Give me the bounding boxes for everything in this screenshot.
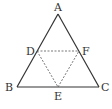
label-c: C: [101, 81, 109, 94]
label-e: E: [54, 90, 62, 103]
label-b: B: [5, 81, 13, 94]
label-f: F: [82, 45, 90, 58]
segment-de: [37, 51, 58, 87]
label-d: D: [26, 45, 35, 58]
segment-ca: [58, 14, 99, 87]
label-a: A: [53, 1, 63, 14]
triangle-diagram: A B C D E F: [0, 0, 112, 109]
segment-ef: [58, 51, 79, 87]
